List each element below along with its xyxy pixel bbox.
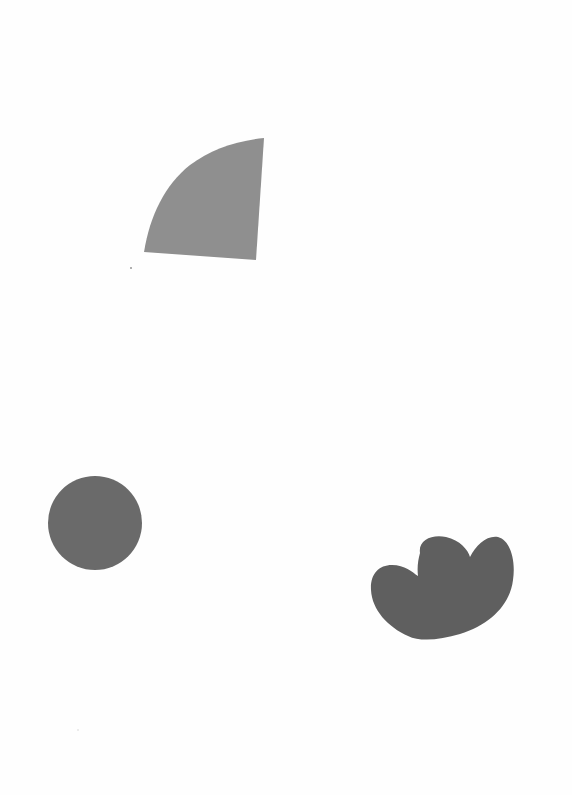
shapes-layer (0, 0, 572, 795)
circle-shape (48, 476, 142, 570)
page-canvas (0, 0, 572, 795)
speck (130, 267, 132, 269)
cloud-blob-shape (371, 536, 514, 639)
quarter-fan-shape (144, 138, 264, 260)
speck (77, 729, 79, 731)
